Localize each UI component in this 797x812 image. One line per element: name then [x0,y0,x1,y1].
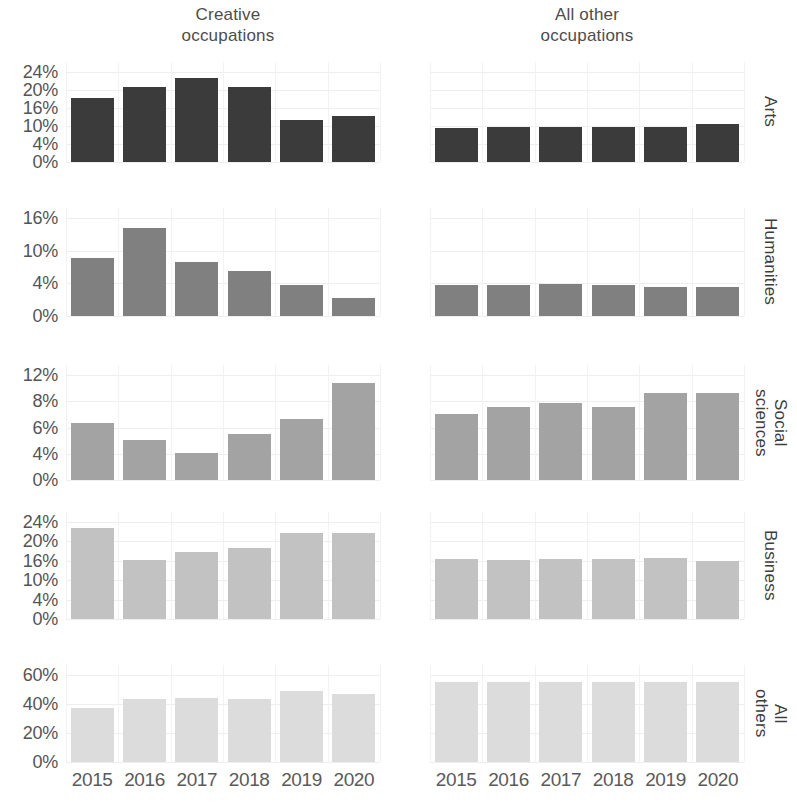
grid-line-vertical [171,208,172,316]
grid-line-vertical [223,512,224,619]
row-strip-business: Business [744,512,797,619]
grid-line-vertical [66,365,67,480]
x-tick-label: 2015 [430,768,482,792]
y-tick-label: 0% [33,153,58,171]
x-tick-label: 2020 [328,768,380,792]
row-strip-social-sciences: Social sciences [744,365,797,480]
grid-line [430,762,744,763]
y-axis-business: 24%20%16%10%4%0% [0,512,62,619]
x-tick-label: 2017 [171,768,223,792]
grid-line-vertical [380,62,381,162]
y-tick-label: 0% [33,471,58,489]
bar [175,262,218,316]
bar [592,682,635,762]
y-tick-label: 4% [33,274,58,292]
grid-line-vertical [692,512,693,619]
panel-humanities-creative-occupations [66,208,380,316]
bar [228,699,271,762]
y-tick-label: 16% [23,99,58,117]
column-title-line1: Creative [138,4,318,25]
bar [280,120,323,162]
grid-line-vertical [639,365,640,480]
bar [123,560,166,619]
y-tick-label: 12% [23,366,58,384]
bar [435,128,478,162]
x-tick-label: 2016 [118,768,170,792]
bar [332,116,375,162]
bar [175,453,218,480]
grid-line-vertical [118,365,119,480]
row-strip-all-others: All others [744,665,797,762]
x-tick-label: 2018 [587,768,639,792]
facet-row-all-others: 60%40%20%0%All others [0,665,797,762]
grid-line-vertical [223,665,224,762]
y-axis-social-sciences: 12%8%6%4%0% [0,365,62,480]
grid-line-vertical [275,62,276,162]
bar [71,98,114,162]
grid-line-vertical [275,512,276,619]
bar [175,78,218,162]
grid-line-vertical [535,62,536,162]
bar [175,698,218,762]
grid-line-vertical [118,512,119,619]
y-tick-label: 10% [23,117,58,135]
bar [228,87,271,162]
panel-social-sciences-all-other-occupations [430,365,744,480]
y-tick-label: 0% [33,610,58,628]
grid-line-vertical [587,208,588,316]
bar [228,271,271,316]
grid-line-vertical [430,62,431,162]
grid-line-vertical [171,665,172,762]
y-tick-label: 20% [23,81,58,99]
bar [487,407,530,480]
bar [539,682,582,762]
column-title-all-other-occupations: All other occupations [497,4,677,46]
x-tick-label: 2020 [692,768,744,792]
bar [487,285,530,316]
grid-line-vertical [380,665,381,762]
bar [280,285,323,316]
grid-line-vertical [692,365,693,480]
bar [435,285,478,316]
grid-line-vertical [587,512,588,619]
bar [435,414,478,480]
bar [123,87,166,162]
y-tick-label: 20% [23,724,58,742]
grid-line-vertical [223,365,224,480]
grid-line [66,619,380,620]
grid-line-vertical [328,208,329,316]
grid-line-vertical [275,365,276,480]
x-tick-label: 2015 [66,768,118,792]
y-tick-label: 4% [33,591,58,609]
grid-line [66,316,380,317]
y-axis-arts: 24%20%16%10%4%0% [0,62,62,162]
grid-line-vertical [430,512,431,619]
grid-line-vertical [118,208,119,316]
bar [435,559,478,619]
bar [123,228,166,316]
grid-line-vertical [380,365,381,480]
column-title-creative-occupations: Creative occupations [138,4,318,46]
grid-line-vertical [171,62,172,162]
bar [644,682,687,762]
panel-all-others-all-other-occupations [430,665,744,762]
bar [644,393,687,480]
x-tick-label: 2019 [639,768,691,792]
bar [487,127,530,162]
column-title-line1: All other [497,4,677,25]
row-strip-humanities: Humanities [744,208,797,316]
grid-line-vertical [482,365,483,480]
grid-line-vertical [430,365,431,480]
bar [592,127,635,162]
bar [123,440,166,480]
x-tick-label: 2017 [535,768,587,792]
grid-line-vertical [328,512,329,619]
grid-line-vertical [380,512,381,619]
bar [644,127,687,162]
grid-line-vertical [171,365,172,480]
bar [696,561,739,619]
y-tick-label: 60% [23,666,58,684]
grid-line-vertical [66,208,67,316]
bar [539,284,582,316]
bar [696,287,739,316]
